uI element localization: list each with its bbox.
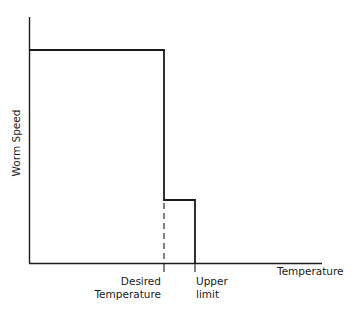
worm-speed-curve	[30, 50, 196, 264]
upper-label-line2: limit	[196, 288, 219, 300]
desired-label-line1: Desired	[121, 275, 161, 287]
desired-label-line2: Temperature	[93, 288, 161, 300]
step-diagram: Worm Speed Temperature Desired Temperatu…	[0, 0, 364, 318]
x-axis-label: Temperature	[276, 265, 344, 277]
upper-label-line1: Upper	[196, 275, 228, 287]
y-axis-label: Worm Speed	[10, 110, 22, 177]
